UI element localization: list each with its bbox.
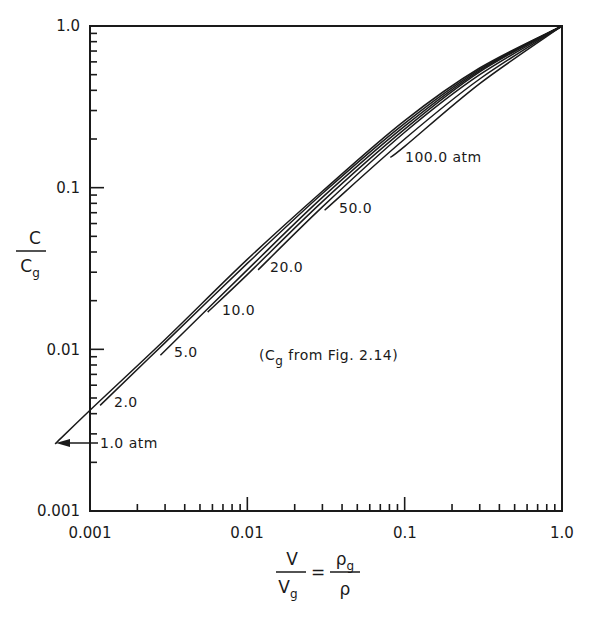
y-label-denominator: Cg — [20, 256, 40, 280]
curve-label-2: 2.0 — [114, 394, 138, 410]
y-axis-label: C Cg — [16, 228, 46, 280]
y-tick-label-0.1: 0.1 — [56, 179, 80, 197]
curves — [55, 26, 562, 444]
annotation-note: (Cg from Fig. 2.14) — [259, 347, 398, 368]
curve-label-1atm: 1.0 atm — [100, 435, 158, 451]
x-tick-label-1: 1.0 — [550, 524, 574, 542]
curve-label-50: 50.0 — [339, 200, 372, 216]
curve-20-0-atm — [258, 26, 562, 270]
x-tick-label-0.01: 0.01 — [230, 524, 263, 542]
curve-50-0-atm — [325, 26, 562, 210]
x-tick-label-0.1: 0.1 — [393, 524, 417, 542]
curve-label-10: 10.0 — [222, 302, 255, 318]
curve-1-0-atm — [55, 26, 562, 444]
curve-10-0-atm — [208, 26, 562, 312]
y-label-numerator: C — [29, 228, 41, 248]
curve-label-5: 5.0 — [174, 344, 198, 360]
curve-5-0-atm — [160, 26, 562, 355]
arrow-1atm — [56, 439, 98, 447]
y-tick-label-0.01: 0.01 — [47, 341, 80, 359]
x-label-equals: = — [311, 562, 325, 582]
x-tick-label-0.001: 0.001 — [69, 524, 112, 542]
plot-frame — [90, 26, 562, 511]
y-tick-label-1: 1.0 — [56, 17, 80, 35]
curve-100-0-atm — [390, 26, 562, 157]
x-label-left-denominator: Vg — [278, 577, 297, 601]
x-label-left-numerator: V — [286, 549, 298, 569]
x-axis-label: V Vg = ρg ρ — [276, 549, 360, 601]
y-tick-label-0.001: 0.001 — [37, 502, 80, 520]
x-label-right-denominator: ρ — [340, 579, 351, 599]
chart: 1.0 0.1 0.01 0.001 0.001 0.01 0.1 1.0 C … — [0, 0, 593, 617]
curve-label-100: 100.0 atm — [405, 149, 482, 165]
x-label-right-numerator: ρg — [336, 549, 354, 573]
curve-label-20: 20.0 — [270, 259, 303, 275]
x-axis-ticks — [137, 497, 554, 511]
